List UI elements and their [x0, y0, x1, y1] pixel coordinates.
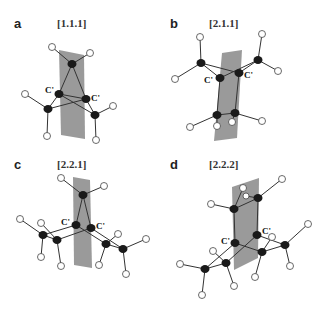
panel-letter: d — [170, 157, 178, 172]
panel-a: a [1.1.1] — [14, 16, 117, 144]
bridgehead-label: C' — [91, 93, 100, 103]
bridgehead-label: C' — [204, 75, 213, 85]
symmetry-plane — [232, 178, 259, 270]
panel-title: [2.1.1] — [209, 17, 238, 29]
molecular-figure: a [1.1.1] — [0, 0, 327, 309]
bridgehead-label: C' — [262, 226, 271, 236]
panel-letter: b — [170, 16, 178, 31]
bridgehead-label: C' — [61, 217, 70, 227]
bridgehead-label: C' — [244, 70, 253, 80]
panel-letter: c — [14, 157, 21, 172]
panel-c: c [2.2.1] — [14, 157, 150, 278]
panel-title: [2.2.1] — [57, 158, 86, 170]
bridgehead-label: C' — [45, 85, 54, 95]
panel-d: d [2.2.2] — [170, 157, 312, 299]
panel-letter: a — [14, 16, 22, 31]
bridgehead-label: C' — [96, 221, 105, 231]
panel-b: b [2.1.1] — [170, 16, 282, 141]
bridgehead-label: C' — [221, 236, 230, 246]
panel-title: [2.2.2] — [209, 158, 238, 170]
panel-title: [1.1.1] — [57, 17, 86, 29]
